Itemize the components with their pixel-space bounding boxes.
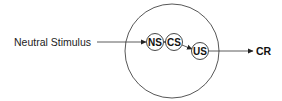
cr-label: CR	[256, 45, 272, 57]
node-cs: CS	[166, 34, 183, 51]
cs-to-us-arrow	[182, 45, 192, 49]
node-us-label: US	[193, 46, 207, 57]
conditioning-diagram: Neutral Stimulus NS CS US CR	[0, 0, 282, 101]
node-us: US	[192, 43, 209, 60]
node-ns: NS	[147, 34, 164, 51]
neutral-stimulus-label: Neutral Stimulus	[14, 36, 91, 48]
node-cs-label: CS	[167, 37, 181, 48]
node-ns-label: NS	[148, 37, 162, 48]
